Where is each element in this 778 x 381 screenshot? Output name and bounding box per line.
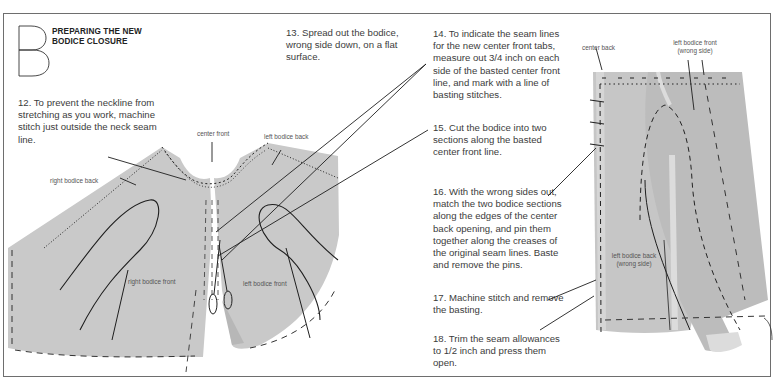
right-figure — [540, 48, 772, 352]
label-left-bodice-back-line-1: left bodice back — [604, 252, 664, 260]
label-left-bodice-back-wrong-side: left bodice back (wrong side) — [604, 252, 664, 267]
label-center-back: center back — [582, 44, 615, 52]
label-right-bodice-back: right bodice back — [50, 177, 98, 185]
label-left-bodice-front-line-2: (wrong side) — [660, 47, 730, 55]
left-figure — [8, 64, 428, 372]
label-left-bodice-back: left bodice back — [264, 133, 308, 141]
label-left-bodice-front: left bodice front — [243, 280, 287, 288]
label-center-front: center front — [197, 130, 229, 138]
label-left-bodice-front-line-1: left bodice front — [660, 39, 730, 47]
bodice-illustration — [0, 0, 778, 381]
label-right-bodice-front: right bodice front — [128, 278, 176, 286]
label-left-bodice-back-line-2: (wrong side) — [604, 260, 664, 268]
label-left-bodice-front-wrong-side: left bodice front (wrong side) — [660, 39, 730, 54]
